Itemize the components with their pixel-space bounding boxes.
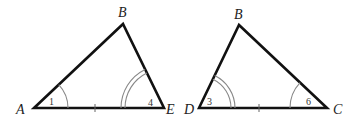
angle-6-arc [290, 83, 300, 108]
angle-3-arc-inner [213, 79, 231, 108]
angle-label-6: 6 [306, 96, 311, 107]
angle-4-arc-inner [125, 73, 147, 108]
diagram-canvas: A B E 1 4 D B C 3 6 [0, 0, 360, 123]
vertex-label-c: C [333, 102, 343, 117]
angle-label-3: 3 [207, 96, 212, 107]
vertex-label-d: D [183, 102, 194, 117]
vertex-label-e: E [165, 102, 175, 117]
vertex-label-b-right: B [234, 7, 243, 22]
angle-3-arc-outer [215, 76, 235, 108]
triangle-abe: A B E 1 4 [15, 5, 175, 117]
vertex-label-a: A [15, 102, 25, 117]
angle-4-arc-outer [121, 69, 145, 108]
angle-label-4: 4 [148, 97, 153, 108]
angle-label-1: 1 [49, 96, 54, 107]
vertex-label-b-left: B [118, 5, 127, 20]
angle-1-arc [59, 85, 68, 108]
triangles-figure: A B E 1 4 D B C 3 6 [0, 0, 360, 123]
triangle-dbc: D B C 3 6 [183, 7, 343, 117]
